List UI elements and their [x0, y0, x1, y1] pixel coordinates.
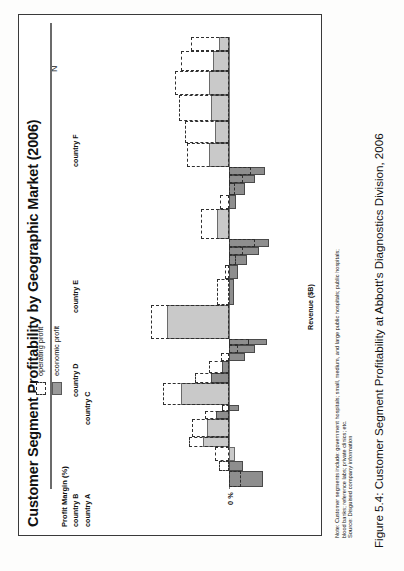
- bar-oper: [185, 121, 229, 143]
- bar-oper: [209, 361, 229, 373]
- bar-oper: [229, 255, 236, 265]
- bar-econ: [229, 405, 239, 411]
- plot-area: [59, 37, 271, 489]
- chart-frame: Customer Segment Profitability by Geogra…: [18, 14, 322, 536]
- category-label-country-b: country B: [71, 493, 80, 527]
- figure-caption: Figure 5.4: Customer Segment Profitabili…: [372, 133, 385, 548]
- bar-oper: [220, 195, 229, 209]
- bar-oper: [195, 373, 229, 383]
- bar-econ: [229, 353, 245, 361]
- bar-oper: [187, 143, 229, 167]
- total-revenue-rule: [50, 23, 52, 489]
- bar-oper: [229, 175, 243, 183]
- bar-oper: [221, 353, 229, 361]
- figure-page: Customer Segment Profitability by Geogra…: [0, 0, 404, 571]
- bar-oper: [229, 183, 235, 195]
- figure-source: Source: Disguised company information: [347, 436, 353, 538]
- bar-oper: [201, 209, 229, 239]
- bar-oper: [229, 247, 243, 255]
- rotated-chart-canvas: Customer Segment Profitability by Geogra…: [19, 15, 321, 535]
- bar-oper: [205, 411, 229, 419]
- bar-econ: [229, 447, 235, 461]
- bar-oper: [229, 471, 241, 487]
- bar-econ: [229, 461, 243, 471]
- bar-oper: [229, 239, 255, 247]
- bar-oper: [215, 447, 229, 461]
- bar-econ: [229, 265, 238, 279]
- bar-econ: [229, 195, 236, 209]
- bar-oper: [163, 383, 229, 405]
- chart-title: Customer Segment Profitability by Geogra…: [25, 120, 41, 527]
- x-axis-title: Revenue ($B): [306, 284, 315, 330]
- category-label-country-a: country A: [83, 494, 92, 527]
- bar-oper: [219, 461, 229, 471]
- bar-oper: [175, 71, 229, 95]
- bar-oper: [217, 279, 229, 305]
- zero-axis-label: 0 %: [226, 492, 235, 505]
- bar-oper: [181, 51, 229, 71]
- bar-oper: [225, 265, 229, 279]
- bar-oper: [189, 437, 229, 447]
- bar-oper: [229, 167, 251, 175]
- legend-swatch-operating-profit: [36, 382, 46, 395]
- bar-oper: [179, 95, 229, 121]
- bar-oper: [222, 405, 229, 411]
- bar-oper: [192, 419, 229, 437]
- bar-oper: [151, 305, 229, 339]
- bar-oper: [191, 37, 229, 51]
- bar-oper: [229, 339, 249, 345]
- bar-oper: [229, 345, 238, 353]
- legend-label-operating-profit: operating profit: [36, 327, 45, 376]
- bar-econ: [229, 279, 234, 305]
